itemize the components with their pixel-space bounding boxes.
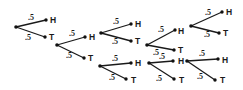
leaf-dot [83,35,86,38]
outcome-tails-label: T [49,32,55,42]
branch-line [100,63,131,66]
probability-label: .5 [112,54,118,63]
probability-label: .5 [25,33,31,42]
tree-node [99,31,103,35]
probability-label: .5 [156,74,162,83]
tree-node [98,64,102,68]
probability-label: .5 [112,37,118,46]
leaf-dot [172,48,175,51]
outcome-tails-label: T [178,45,184,55]
tree-node [145,43,149,47]
branch-edges [16,12,222,80]
probability-label: .5 [199,49,205,58]
outcome-heads-label: H [50,15,56,25]
outcome-tails-label: T [135,36,141,46]
outcome-heads-label: H [178,26,184,36]
leaf-dot [129,22,132,25]
tree-node [185,59,189,63]
outcome-heads-label: H [135,19,141,29]
probability-label: .5 [204,30,210,39]
outcome-tails-label: T [223,28,229,38]
leaf-dot [44,18,47,21]
outcome-heads-label: H [226,7,232,17]
branch-line [187,59,218,61]
outcome-heads-label: H [178,56,184,66]
probability-label: .5 [113,17,119,26]
probability-label: .5 [197,72,203,81]
outcome-heads-label: H [89,32,95,42]
probability-tree-diagram: .5H.5T.5H.5T.5H.5T.5H.5T.5H.5T.5H.5T.5H.… [0,0,243,90]
leaf-dot [129,39,132,42]
tree-node [147,61,151,65]
leaf-dot [82,56,85,59]
probability-label: .5 [69,29,75,38]
tree-node [189,24,193,28]
leaf-dot [213,78,216,81]
branch-line [149,61,173,63]
leaf-dot [217,31,220,34]
outcome-tails-label: T [220,75,226,85]
leaf-dot [171,59,174,62]
branch-line [147,45,174,50]
outcome-tails-label: T [179,75,185,85]
leaf-dot [124,77,127,80]
leaf-dot [129,61,132,64]
leaf-dot [173,28,176,31]
leaf-dot [43,35,46,38]
leaf-dot [220,10,223,13]
probability-label: .5 [66,51,72,60]
probability-label: .5 [28,13,34,22]
outcome-tails-label: T [88,53,94,63]
branch-line [57,37,85,45]
outcome-heads-label: H [222,55,228,65]
leaf-dot [172,77,175,80]
probability-label: .5 [159,52,165,61]
outcome-heads-label: H [135,58,141,68]
probability-label: .5 [109,73,115,82]
outcome-tails-label: T [131,75,137,85]
probability-label: .5 [205,8,211,17]
tree-node [14,25,18,29]
leaf-dot [216,57,219,60]
probability-label: .5 [158,25,164,34]
tree-node [55,43,59,47]
